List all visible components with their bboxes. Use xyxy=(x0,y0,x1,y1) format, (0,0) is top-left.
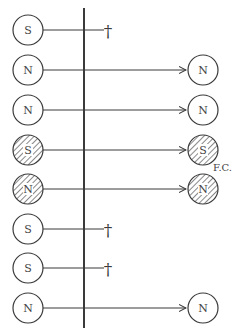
row: SS xyxy=(13,135,218,165)
row: S† xyxy=(13,253,113,283)
right-cell-label: S xyxy=(199,144,207,157)
left-cell-label: N xyxy=(23,183,33,196)
row: NN xyxy=(13,95,218,125)
left-cell-label: N xyxy=(23,64,33,77)
row: S† xyxy=(13,214,113,244)
left-cell-label: N xyxy=(23,104,33,117)
left-cell-label: S xyxy=(24,144,32,157)
left-cell-label: N xyxy=(23,302,33,315)
left-cell-label: S xyxy=(24,262,32,275)
row: S† xyxy=(13,15,113,45)
left-cell-label: S xyxy=(24,24,32,37)
right-cell-label: N xyxy=(198,183,208,196)
dagger-icon: † xyxy=(104,21,113,41)
row: NN xyxy=(13,293,218,323)
right-cell-label: N xyxy=(198,302,208,315)
diagram: S†NNNNSSNNS†S†NN F.C. xyxy=(0,0,242,335)
dagger-icon: † xyxy=(104,259,113,279)
fc-annotation: F.C. xyxy=(213,162,232,173)
row: NN xyxy=(13,174,218,204)
right-cell-label: N xyxy=(198,64,208,77)
right-cell-label: N xyxy=(198,104,208,117)
row: NN xyxy=(13,55,218,85)
left-cell-label: S xyxy=(24,223,32,236)
dagger-icon: † xyxy=(104,220,113,240)
